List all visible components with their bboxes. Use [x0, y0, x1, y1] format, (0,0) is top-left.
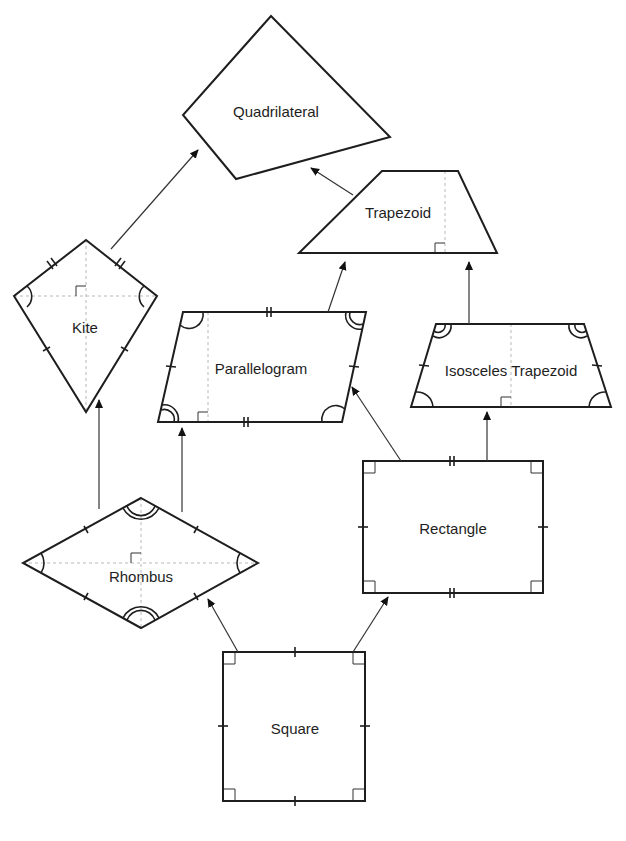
- square-label: Square: [271, 720, 319, 737]
- shapes-layer: [14, 16, 611, 801]
- congruence-ticks: [43, 258, 602, 806]
- trapezoid-label: Trapezoid: [365, 204, 431, 221]
- arrow-trapezoid-to-quadrilateral: [311, 168, 353, 195]
- kite-label: Kite: [72, 319, 98, 336]
- guide-lines: [14, 171, 511, 628]
- arrow-square-to-rectangle: [353, 597, 388, 652]
- parallelogram-label: Parallelogram: [215, 360, 308, 377]
- arrow-square-to-rhombus: [208, 599, 238, 652]
- arrow-parallelogram-to-trapezoid: [328, 262, 345, 312]
- arrow-rectangle-to-parallelogram: [352, 387, 401, 461]
- quadrilateral-label: Quadrilateral: [233, 103, 319, 120]
- quadrilateral-hierarchy-diagram: [0, 0, 626, 841]
- quadrilateral-shape: [183, 16, 390, 179]
- rectangle-label: Rectangle: [419, 520, 487, 537]
- isosceles-trapezoid-label: Isosceles Trapezoid: [445, 362, 578, 379]
- rhombus-label: Rhombus: [109, 568, 173, 585]
- arrow-kite-to-quadrilateral: [111, 150, 198, 249]
